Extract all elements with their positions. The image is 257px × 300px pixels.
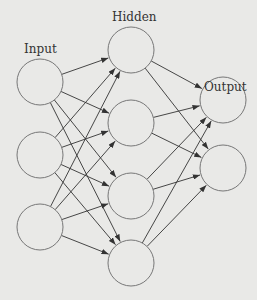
connection-arrow xyxy=(61,91,109,113)
input-layer-label: Input xyxy=(24,42,57,56)
hidden-node xyxy=(108,100,154,146)
input-node xyxy=(17,132,63,178)
connections xyxy=(50,58,211,254)
connection-arrow xyxy=(55,141,115,210)
connection-arrow xyxy=(61,235,108,254)
connection-arrow xyxy=(152,133,202,157)
connection-arrow xyxy=(62,58,109,74)
connection-arrow xyxy=(145,68,208,149)
hidden-node xyxy=(108,240,154,286)
input-node xyxy=(17,204,63,250)
output-node xyxy=(200,145,246,191)
connection-arrow xyxy=(142,121,211,243)
hidden-node xyxy=(108,173,154,219)
connection-arrow xyxy=(55,173,116,245)
connection-arrow xyxy=(151,61,202,89)
output-layer-label: Output xyxy=(204,80,247,94)
hidden-node xyxy=(108,27,154,73)
connection-arrow xyxy=(153,106,199,118)
connection-arrow xyxy=(62,204,109,220)
hidden-layer-label: Hidden xyxy=(112,10,157,24)
connection-arrow xyxy=(55,68,115,137)
connection-arrow xyxy=(147,117,206,179)
input-node xyxy=(17,59,63,105)
connection-arrow xyxy=(147,185,206,246)
nodes xyxy=(17,27,246,286)
